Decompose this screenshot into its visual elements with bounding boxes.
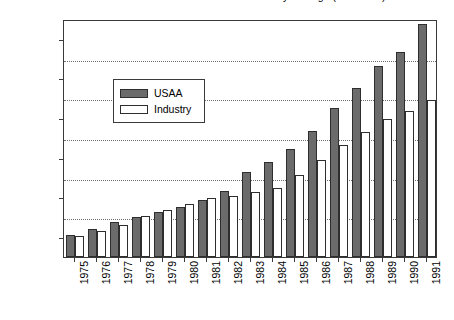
x-axis-tick <box>74 258 75 262</box>
x-axis-tick-label: 1986 <box>321 261 332 284</box>
bar-usaa-1989 <box>374 66 383 257</box>
x-axis-tick-label: 1976 <box>101 261 112 284</box>
bar-industry-1979 <box>163 210 172 257</box>
x-axis-tick <box>426 258 427 262</box>
bar-industry-1984 <box>273 188 282 257</box>
bar-usaa-1987 <box>330 108 339 257</box>
x-axis-tick-label: 1990 <box>409 261 420 284</box>
bar-usaa-1988 <box>352 88 361 257</box>
bar-usaa-1975 <box>66 235 75 257</box>
y-axis-tick <box>59 79 63 80</box>
x-axis-tick <box>294 258 295 262</box>
y-axis-tick <box>59 238 63 239</box>
legend-swatch-industry <box>120 105 148 114</box>
x-axis-tick-label: 1975 <box>79 261 90 284</box>
x-axis-tick <box>272 258 273 262</box>
bar-usaa-1976 <box>88 229 97 257</box>
bar-industry-1983 <box>251 192 260 257</box>
bar-usaa-1985 <box>286 149 295 257</box>
x-axis-tick <box>206 258 207 262</box>
bar-industry-1987 <box>339 145 348 257</box>
bar-usaa-1982 <box>220 191 229 257</box>
bar-industry-1975 <box>75 236 84 257</box>
bar-usaa-1983 <box>242 172 251 257</box>
bar-industry-1990 <box>405 111 414 257</box>
y-axis-tick <box>59 159 63 160</box>
legend-label-industry: Industry <box>154 104 191 114</box>
plot-area <box>63 20 437 258</box>
x-axis-tick-label: 1984 <box>277 261 288 284</box>
x-axis-tick-label: 1987 <box>343 261 354 284</box>
x-axis-tick <box>404 258 405 262</box>
bar-usaa-1979 <box>154 212 163 257</box>
bar-usaa-1981 <box>198 200 207 257</box>
x-axis-tick-label: 1982 <box>233 261 244 284</box>
bar-usaa-1991 <box>418 24 427 257</box>
x-axis-tick <box>360 258 361 262</box>
x-axis-tick-label: 1983 <box>255 261 266 284</box>
x-axis-tick <box>316 258 317 262</box>
bar-industry-1977 <box>119 225 128 257</box>
x-axis-tick-label: 1978 <box>145 261 156 284</box>
bar-usaa-1980 <box>176 207 185 257</box>
x-axis-tick <box>250 258 251 262</box>
bar-usaa-1990 <box>396 52 405 257</box>
legend-item: USAA <box>120 85 204 101</box>
x-axis-tick-label: 1977 <box>123 261 134 284</box>
bar-usaa-1986 <box>308 131 317 257</box>
x-axis-tick <box>162 258 163 262</box>
y-axis-tick <box>59 119 63 120</box>
bar-industry-1986 <box>317 160 326 257</box>
x-axis-tick <box>382 258 383 262</box>
x-axis-tick <box>140 258 141 262</box>
x-axis-tick-label: 1979 <box>167 261 178 284</box>
bar-industry-1982 <box>229 196 238 257</box>
legend-label-usaa: USAA <box>154 88 183 98</box>
x-axis-tick <box>96 258 97 262</box>
bar-industry-1985 <box>295 175 304 257</box>
x-axis-tick-label: 1989 <box>387 261 398 284</box>
y-axis-tick <box>59 40 63 41</box>
bar-industry-1976 <box>97 231 106 257</box>
x-axis-tick <box>118 258 119 262</box>
x-axis-tick-label: 1991 <box>431 261 442 284</box>
bar-industry-1978 <box>141 216 150 257</box>
chart-title: Exhibit 2. Premiums Written: USAA vs. In… <box>0 0 454 2</box>
bar-industry-1989 <box>383 119 392 257</box>
bar-industry-1988 <box>361 132 370 257</box>
bar-usaa-1978 <box>132 217 141 257</box>
bar-chart: Exhibit 2. Premiums Written: USAA vs. In… <box>0 0 454 320</box>
bar-usaa-1977 <box>110 222 119 257</box>
x-axis-tick-label: 1980 <box>189 261 200 284</box>
bar-usaa-1984 <box>264 162 273 257</box>
x-axis-tick-label: 1981 <box>211 261 222 284</box>
chart-legend: USAA Industry <box>113 79 205 123</box>
x-axis-tick-label: 1988 <box>365 261 376 284</box>
y-axis-tick <box>59 198 63 199</box>
bar-industry-1991 <box>427 100 436 257</box>
x-axis: 1975197619771978197919801981198219831984… <box>63 259 437 319</box>
legend-swatch-usaa <box>120 89 148 98</box>
legend-item: Industry <box>120 101 204 117</box>
x-axis-tick <box>338 258 339 262</box>
bar-industry-1981 <box>207 198 216 258</box>
x-axis-tick <box>184 258 185 262</box>
x-axis-tick-label: 1985 <box>299 261 310 284</box>
bars-layer <box>64 21 436 257</box>
bar-industry-1980 <box>185 204 194 257</box>
x-axis-tick <box>228 258 229 262</box>
